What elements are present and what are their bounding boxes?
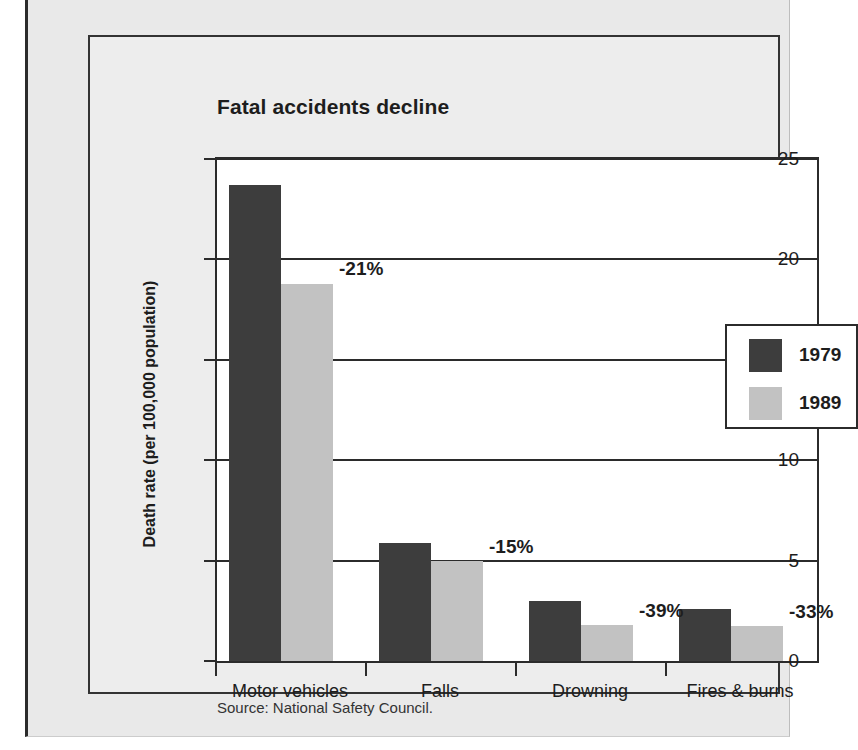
chart-title: Fatal accidents decline (217, 95, 449, 119)
legend-swatch-1979 (749, 339, 782, 372)
y-axis-tick (204, 459, 215, 461)
x-axis-divider (365, 661, 367, 676)
legend-label-1979: 1979 (799, 344, 841, 366)
x-axis-divider (665, 661, 667, 676)
percent-change-label: -39% (639, 600, 683, 622)
bar-motor-vehicles-1989 (281, 284, 333, 662)
x-axis-category-label: Fires & burns (686, 681, 793, 702)
source-note: Source: National Safety Council. (217, 699, 433, 716)
y-axis-title: Death rate (per 100,000 population) (141, 164, 159, 664)
percent-change-label: -15% (489, 536, 533, 558)
y-axis-tick (204, 258, 215, 260)
bar-drowning-1979 (529, 601, 581, 661)
bar-drowning-1989 (581, 625, 633, 661)
gridline (217, 158, 817, 160)
bar-fires-burns-1989 (731, 626, 783, 661)
y-axis-tick (204, 359, 215, 361)
gridline (217, 258, 817, 260)
plot-area: 0510152025 -21%-15%-39%-33% 19791989 (215, 157, 819, 663)
legend: 19791989 (725, 324, 858, 429)
y-axis-tick (204, 560, 215, 562)
outer-frame: Fatal accidents decline Death rate (per … (25, 0, 790, 737)
y-axis-tick-label: 25 (778, 148, 799, 170)
legend-item-1979: 1979 (727, 336, 856, 374)
legend-swatch-1989 (749, 387, 782, 420)
x-axis-divider (515, 661, 517, 676)
bar-falls-1989 (431, 561, 483, 661)
percent-change-label: -21% (339, 258, 383, 280)
y-axis-tick (204, 660, 215, 662)
legend-label-1989: 1989 (799, 392, 841, 414)
y-axis-tick-label: 10 (778, 449, 799, 471)
x-axis-divider (215, 661, 217, 676)
y-axis-tick (204, 158, 215, 160)
figure-box: Fatal accidents decline Death rate (per … (88, 35, 780, 694)
bar-falls-1979 (379, 543, 431, 661)
bar-fires-burns-1979 (679, 609, 731, 661)
y-axis-tick-label: 5 (788, 550, 799, 572)
percent-change-label: -33% (789, 601, 833, 623)
bar-motor-vehicles-1979 (229, 185, 281, 661)
x-axis-category-label: Drowning (552, 681, 628, 702)
legend-item-1989: 1989 (727, 384, 856, 422)
y-axis-tick-label: 20 (778, 248, 799, 270)
